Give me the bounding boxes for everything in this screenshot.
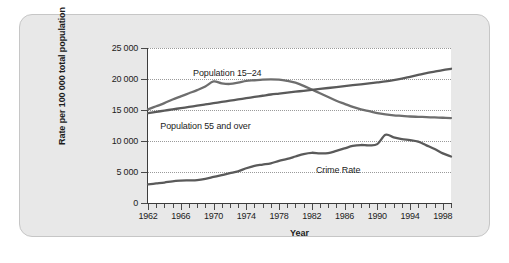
x-tick-label: 1970 [204,211,223,221]
x-tick-label: 1994 [400,211,419,221]
x-tick-mark [304,204,305,208]
x-tick-mark [435,204,436,208]
x-tick-mark [205,204,206,208]
x-tick-mark [295,204,296,208]
x-tick-mark [385,204,386,208]
x-tick-label: 1982 [302,211,321,221]
y-tick-mark [141,79,147,80]
y-tick-mark [141,203,147,204]
x-tick-mark [377,204,378,210]
x-tick-mark [336,204,337,208]
x-tick-mark [173,204,174,208]
chart-figure: Rate per 100 000 total population 25 000… [0,0,509,263]
x-tick-mark [156,204,157,208]
x-tick-mark [361,204,362,208]
x-tick-mark [394,204,395,208]
y-tick-mark [141,110,147,111]
x-tick-mark [353,204,354,208]
x-tick-mark [222,204,223,208]
x-tick-mark [189,204,190,208]
x-tick-mark [164,204,165,208]
series-label: Crime Rate [316,165,361,175]
x-tick-mark [451,204,452,208]
series-line [148,135,451,185]
x-tick-mark [271,204,272,208]
x-tick-mark [320,204,321,208]
y-tick-label: 25 000 [86,43,138,53]
x-tick-label: 1990 [368,211,387,221]
y-tick-mark [141,48,147,49]
y-tick-mark [141,172,147,173]
x-tick-mark [443,204,444,210]
x-tick-label: 1998 [433,211,452,221]
series-label: Population 15–24 [193,68,261,78]
x-tick-label: 1974 [237,211,256,221]
x-tick-mark [312,204,313,210]
x-tick-mark [181,204,182,210]
x-tick-mark [369,204,370,208]
x-tick-mark [197,204,198,208]
x-axis-line [147,203,452,204]
series-label: Population 55 and over [160,121,250,131]
x-tick-mark [418,204,419,208]
y-tick-mark [141,141,147,142]
x-axis-title: Year [148,228,451,238]
x-tick-mark [263,204,264,208]
y-tick-label: 0 [86,198,138,208]
y-tick-label: 5 000 [86,167,138,177]
x-tick-mark [328,204,329,208]
series-line [148,79,451,118]
x-tick-mark [230,204,231,208]
x-tick-mark [287,204,288,208]
x-tick-mark [402,204,403,208]
x-tick-mark [426,204,427,208]
x-tick-label: 1978 [269,211,288,221]
y-tick-label: 15 000 [86,105,138,115]
x-tick-mark [254,204,255,208]
x-tick-mark [214,204,215,210]
y-axis-title: Rate per 100 000 total population [57,1,67,151]
y-tick-label: 20 000 [86,74,138,84]
x-tick-mark [279,204,280,210]
x-tick-label: 1962 [138,211,157,221]
x-tick-mark [148,204,149,210]
x-tick-mark [246,204,247,210]
x-tick-label: 1986 [335,211,354,221]
y-tick-label: 10 000 [86,136,138,146]
chart-card: Rate per 100 000 total population 25 000… [19,14,490,237]
x-tick-mark [345,204,346,210]
x-tick-label: 1966 [171,211,190,221]
x-tick-mark [410,204,411,210]
x-tick-mark [238,204,239,208]
